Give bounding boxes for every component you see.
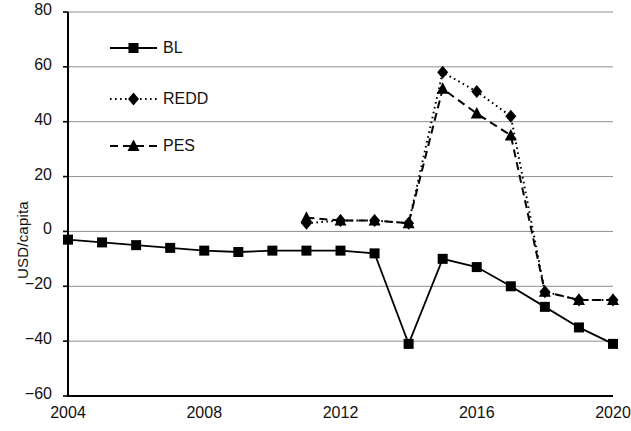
series-line-redd (306, 72, 613, 300)
axis-lines (68, 12, 613, 396)
data-point-bl (63, 235, 73, 245)
data-point-bl (336, 246, 346, 256)
data-point-pes (300, 211, 312, 223)
data-point-bl (608, 339, 618, 349)
data-point-bl (540, 302, 550, 312)
data-point-bl (404, 339, 414, 349)
chart-container: USD/capita 80 60 40 20 0 −20 −40 −60 200… (0, 0, 631, 431)
data-point-bl (267, 246, 277, 256)
legend-marker-redd (128, 93, 139, 106)
data-point-bl (97, 237, 107, 247)
data-point-bl (131, 240, 141, 250)
data-point-redd (437, 66, 448, 79)
data-point-bl (370, 248, 380, 258)
data-point-pes (505, 129, 517, 141)
data-point-redd (505, 110, 516, 123)
data-point-bl (472, 262, 482, 272)
data-point-bl (506, 281, 516, 291)
data-point-pes (471, 107, 483, 119)
series-line-pes (306, 89, 613, 300)
data-point-redd (471, 85, 482, 98)
data-point-bl (301, 246, 311, 256)
data-point-bl (233, 247, 243, 257)
legend-marker-bl (129, 43, 139, 53)
data-point-bl (574, 322, 584, 332)
data-point-bl (438, 254, 448, 264)
data-point-bl (199, 246, 209, 256)
data-point-bl (165, 243, 175, 253)
plot-area (0, 0, 631, 431)
